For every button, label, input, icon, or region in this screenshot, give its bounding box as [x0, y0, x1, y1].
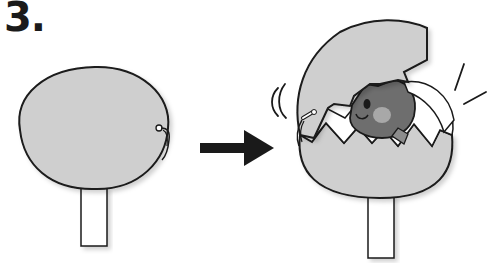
- chick-cheek: [373, 107, 391, 123]
- left-stick: [81, 188, 107, 246]
- left-egg-shell: [19, 67, 168, 189]
- closed-egg: [19, 67, 169, 246]
- chick-eye: [364, 99, 371, 109]
- arrow-right-icon: [200, 130, 274, 166]
- illustration: [0, 0, 492, 263]
- hatched-egg: [272, 20, 486, 258]
- right-stick: [368, 196, 394, 258]
